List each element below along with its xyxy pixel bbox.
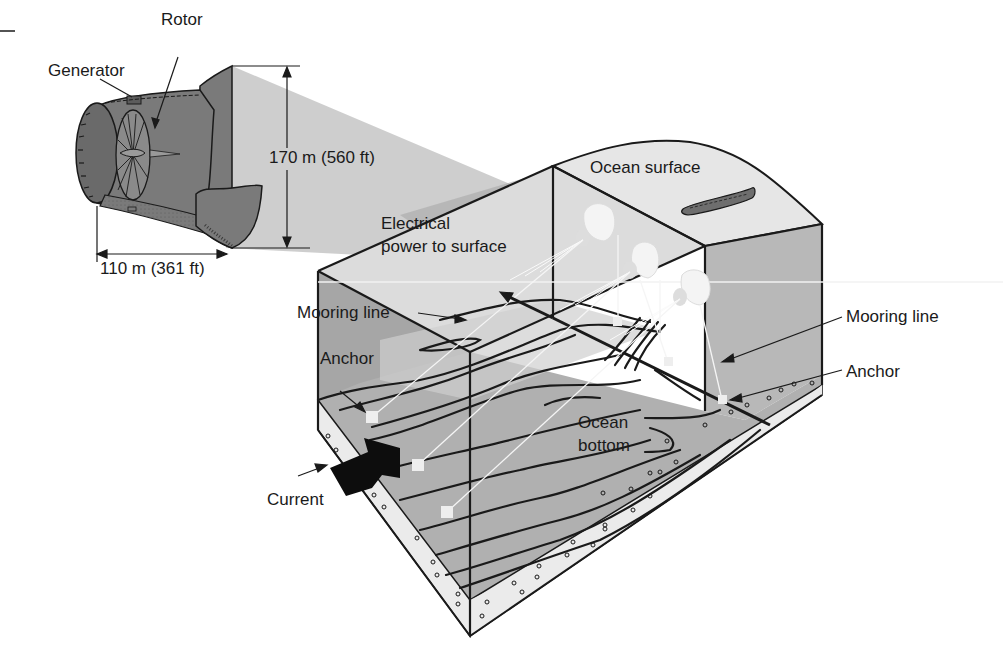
electrical-power-label-line2: power to surface <box>381 237 507 257</box>
current-label: Current <box>267 490 324 510</box>
ocean-bottom-label-line2: bottom <box>578 436 630 456</box>
length-dimension-label: 110 m (361 ft) <box>100 259 205 279</box>
rotor-label: Rotor <box>161 10 203 30</box>
ocean-surface-label: Ocean surface <box>590 158 701 178</box>
diagram-artwork <box>0 0 1003 664</box>
generator-label: Generator <box>48 61 125 81</box>
height-dimension-label: 170 m (560 ft) <box>269 148 375 168</box>
turbine-diagram: Rotor Generator 170 m (560 ft) 110 m (36… <box>0 0 1003 664</box>
mooring-line-label-left: Mooring line <box>297 303 390 323</box>
electrical-power-label-line1: Electrical <box>381 214 450 234</box>
ocean-bottom-label-line1: Ocean <box>578 413 628 433</box>
anchor-label-left: Anchor <box>320 349 374 369</box>
anchor-label-right: Anchor <box>846 362 900 382</box>
mooring-line-label-right: Mooring line <box>846 307 939 327</box>
